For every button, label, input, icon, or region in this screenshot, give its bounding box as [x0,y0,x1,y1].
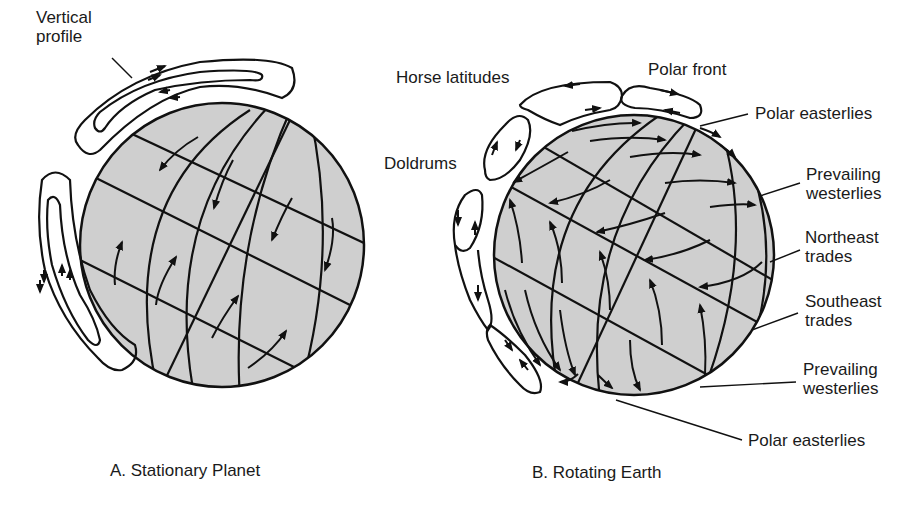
label-polar-front: Polar front [648,60,726,79]
label-prevailing-westerlies-bottom: Prevailing westerlies [803,360,879,398]
label-prevailing-westerlies-top: Prevailing westerlies [806,165,882,203]
vertical-profile-label-line1: Vertical [36,8,92,27]
label-polar-easterlies-top: Polar easterlies [755,104,872,123]
label-prevailing-westerlies-top-line2: westerlies [806,184,882,203]
rotating-earth-globe [480,107,790,420]
label-horse-latitudes: Horse latitudes [396,68,509,87]
stationary-planet-globe [60,100,400,420]
label-prevailing-westerlies-bottom-line2: westerlies [803,379,879,398]
vertical-profile-leader-line [112,58,132,78]
caption-stationary-planet: A. Stationary Planet [110,461,260,481]
label-southeast-trades-line1: Southeast [805,292,882,311]
label-prevailing-westerlies-bottom-line1: Prevailing [803,360,879,379]
vertical-profile-label-line2: profile [36,27,92,46]
label-northeast-trades-line2: trades [805,247,879,266]
label-prevailing-westerlies-top-line1: Prevailing [806,165,882,184]
label-polar-easterlies-bottom: Polar easterlies [748,431,865,450]
label-doldrums: Doldrums [384,154,457,173]
vertical-profile-label: Vertical profile [36,8,92,46]
label-northeast-trades-line1: Northeast [805,228,879,247]
label-southeast-trades-line2: trades [805,311,882,330]
label-northeast-trades: Northeast trades [805,228,879,266]
label-southeast-trades: Southeast trades [805,292,882,330]
caption-rotating-earth: B. Rotating Earth [532,463,661,483]
